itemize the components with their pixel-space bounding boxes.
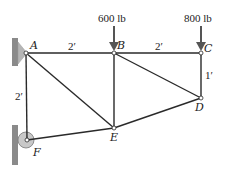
member-ef [27,128,114,140]
dim-label-cd: 1′ [205,69,213,81]
joint-a [24,51,28,55]
node-label-e: E [109,131,118,144]
dim-label-af: 2′ [15,90,23,102]
member-af [26,53,27,140]
member-ae [26,53,114,128]
wall-support-f [12,125,34,165]
dim-label-ab: 2′ [68,40,76,52]
node-label-c: C [204,42,213,55]
node-label-b: B [116,39,125,52]
member-de [114,98,201,128]
node-label-a: A [29,39,38,52]
joint-f [25,138,29,142]
node-label-f: F [32,146,41,159]
load-label-b: 600 lb [98,12,126,24]
member-bd [114,53,201,98]
joint-d [199,96,203,100]
joint-e [112,126,116,130]
truss-diagram: 600 lb 800 lb A B C D E F 2′ 2′ 1′ 2′ [0,0,234,170]
load-label-c: 800 lb [184,12,212,24]
node-label-d: D [194,101,204,114]
joint-c [199,51,203,55]
joint-b [112,51,116,55]
dim-label-bc: 2′ [155,40,163,52]
